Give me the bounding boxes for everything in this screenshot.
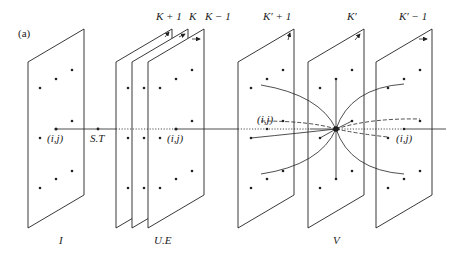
label-layer-i: I xyxy=(58,234,64,246)
label-k-minus-1: K − 1 xyxy=(204,10,231,22)
layer-labels: I U.E V xyxy=(58,234,341,246)
st-node xyxy=(97,128,100,131)
label-k: K xyxy=(188,10,197,22)
label-layer-v: V xyxy=(333,234,341,246)
label-kp: K′ xyxy=(346,10,357,22)
label-k-plus-1: K + 1 xyxy=(155,10,182,22)
label-st: S.T xyxy=(90,132,105,144)
panel-label: (a) xyxy=(18,27,31,40)
label-kp-plus-1: K′ + 1 xyxy=(262,10,291,22)
label-layer-ue: U.E xyxy=(154,234,172,246)
top-labels: K + 1 K K − 1 K′ + 1 K′ K′ − 1 xyxy=(155,10,427,22)
label-ij-v-right: (i,j) xyxy=(396,132,413,145)
diagram-canvas: (a) xyxy=(0,0,456,255)
label-kp-minus-1: K′ − 1 xyxy=(398,10,427,22)
label-ij-ue: (i,j) xyxy=(167,132,184,145)
label-ij-v-left: (i,j) xyxy=(257,113,274,126)
label-ij-input: (i,j) xyxy=(47,132,64,145)
diagram-figure: (a) xyxy=(0,0,456,255)
